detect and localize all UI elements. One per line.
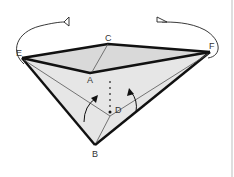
label-e: E bbox=[16, 48, 22, 58]
origami-diagram: E F C A D B bbox=[0, 0, 234, 177]
label-c: C bbox=[105, 33, 112, 43]
label-d: D bbox=[115, 105, 122, 115]
label-f: F bbox=[209, 41, 215, 51]
point-dot bbox=[109, 111, 112, 114]
label-a: A bbox=[87, 75, 93, 85]
label-b: B bbox=[92, 149, 98, 159]
